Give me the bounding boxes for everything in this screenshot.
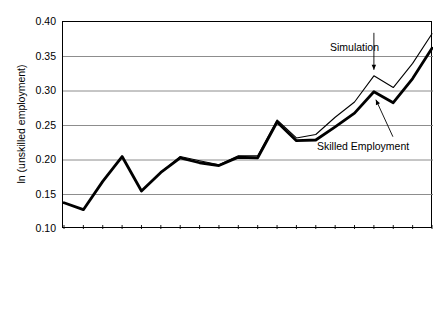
y-axis-tick-labels: 0.400.350.300.250.200.150.10 [16, 0, 56, 326]
annotation-simulation: Simulation [330, 41, 379, 53]
y-tick-label: 0.40 [22, 16, 56, 26]
series-line [64, 48, 432, 209]
chart-container: ln (unskilled employment) 0.400.350.300.… [0, 0, 446, 326]
y-tick-label: 0.20 [22, 154, 56, 164]
series-line [64, 34, 432, 210]
annotation-arrow-head [372, 65, 376, 70]
x-axis-tick-labels [62, 232, 434, 326]
y-tick-label: 0.35 [22, 51, 56, 61]
annotation-arrow-line [376, 100, 393, 137]
annotation-skilled-employment: Skilled Employment [317, 140, 409, 152]
data-series-lines [64, 34, 432, 210]
gridlines [63, 57, 433, 195]
chart-svg [63, 22, 433, 229]
y-tick-label: 0.25 [22, 120, 56, 130]
y-tick-label: 0.10 [22, 223, 56, 233]
y-tick-label: 0.15 [22, 189, 56, 199]
x-axis-tick-marks [64, 225, 432, 229]
y-tick-label: 0.30 [22, 85, 56, 95]
